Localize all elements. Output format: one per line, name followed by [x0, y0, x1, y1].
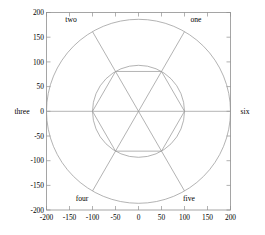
x-tick-label-neg100: -100 [86, 213, 100, 222]
x-tick-label-0: 0 [137, 213, 141, 222]
y-tick-label-neg150: -150 [30, 181, 44, 190]
vertex-label-one: one [191, 15, 203, 24]
spoke-lines [47, 32, 231, 191]
vertex-label-five: five [183, 194, 195, 203]
x-tick-label-neg50: -50 [111, 213, 121, 222]
x-tick-marks-bottom [47, 206, 231, 210]
x-tick-label-150: 150 [202, 213, 213, 222]
y-tick-label-neg50: -50 [34, 132, 44, 141]
y-tick-label-neg100: -100 [30, 156, 44, 165]
x-tick-label-100: 100 [179, 213, 190, 222]
x-tick-label-neg200: -200 [40, 213, 54, 222]
y-tick-label-0: 0 [40, 107, 44, 116]
vertex-label-four: four [76, 194, 89, 203]
y-tick-label-200: 200 [33, 8, 44, 17]
y-tick-label-100: 100 [33, 58, 44, 67]
vertex-label-two: two [65, 15, 77, 24]
x-tick-label-neg150: -150 [63, 213, 77, 222]
y-tick-label-150: 150 [33, 33, 44, 42]
y-tick-label-50: 50 [37, 82, 45, 91]
vertex-label-six: six [241, 107, 250, 116]
plot-canvas: 200 150 100 50 0 -50 -100 -150 -200 -200… [0, 0, 265, 235]
polar-hexagon-figure: 200 150 100 50 0 -50 -100 -150 -200 -200… [0, 0, 265, 235]
vertex-label-three: three [14, 107, 30, 116]
x-tick-label-50: 50 [158, 213, 166, 222]
x-tick-label-200: 200 [225, 213, 236, 222]
